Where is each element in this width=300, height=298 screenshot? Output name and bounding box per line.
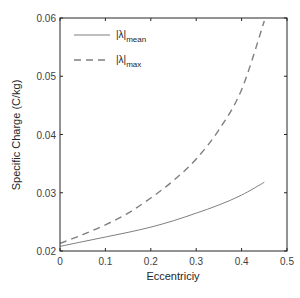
y-tick-label: 0.06 xyxy=(37,13,57,24)
x-axis-label: Eccentriciy xyxy=(146,270,200,282)
x-tick-label: 0.1 xyxy=(98,256,112,267)
x-tick-label: 0.4 xyxy=(235,256,249,267)
x-tick-label: 0.3 xyxy=(189,256,203,267)
y-tick-label: 0.04 xyxy=(37,130,57,141)
x-tick-label: 0.2 xyxy=(144,256,158,267)
legend-label-max: |λ| xyxy=(116,54,126,65)
y-tick-label: 0.03 xyxy=(37,188,57,199)
chart: 00.10.20.30.40.50.020.030.040.050.06 |λ|… xyxy=(0,0,300,298)
x-tick-label: 0.5 xyxy=(280,256,294,267)
series-line-mean xyxy=(60,182,264,246)
y-axis-label: Specific Charge (C/kg) xyxy=(10,80,22,191)
legend-label-mean: |λ| xyxy=(116,29,126,40)
x-tick-label: 0 xyxy=(57,256,63,267)
legend-sub-mean: mean xyxy=(126,35,146,44)
legend-sub-max: max xyxy=(126,60,141,69)
y-tick-label: 0.05 xyxy=(37,71,57,82)
y-tick-label: 0.02 xyxy=(37,246,57,257)
legend: |λ|mean |λ|max xyxy=(66,24,150,76)
